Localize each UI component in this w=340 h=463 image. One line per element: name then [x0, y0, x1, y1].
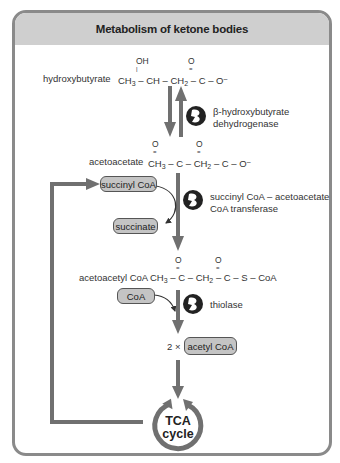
formula-acetoacetyl-coa: CH3 – C – CH2 – C – S – CoA [150, 272, 277, 286]
oh-group: OH [136, 57, 149, 66]
enzyme-label-1-line2: dehydrogenase [213, 118, 279, 129]
arrow-down-4 [172, 360, 184, 399]
enzyme-icon-dehydrogenase [186, 106, 206, 126]
compound-name-acetoacetyl-coa: acetoacetyl CoA [79, 272, 148, 283]
enzyme-label-3: thiolase [210, 299, 243, 310]
pathway-arrows [0, 0, 340, 463]
enzyme-label-2-line2: CoA transferase [210, 203, 278, 214]
succinyl-coa-box: succinyl CoA [100, 176, 157, 192]
tca-label-line2: cycle [158, 428, 198, 441]
acetyl-coa-box: acetyl CoA [184, 337, 237, 355]
arrow-up-1 [175, 86, 187, 137]
compound-name-acetoacetate: acetoacetate [89, 156, 143, 167]
formula-hydroxybutyrate: CH3 – CH – CH2 – C – O– [118, 73, 227, 89]
coa-arrow [154, 295, 175, 311]
acetyl-multiplier: 2 × [167, 341, 180, 352]
enzyme-icon-thiolase [183, 294, 203, 314]
succinyl-to-succinate-arrow [156, 186, 176, 223]
enzyme-label-1-line1: β-hydroxybutyrate [213, 106, 289, 117]
arrow-down-3 [172, 290, 184, 334]
formula-acetoacetate: CH3 – C – CH2 – C – O– [148, 156, 251, 172]
arrow-down-2 [172, 173, 184, 251]
arrow-down-1 [164, 86, 176, 137]
coa-box: CoA [117, 288, 155, 304]
succinate-box: succinate [113, 218, 158, 234]
compound-name-hydroxybutyrate: hydroxybutyrate [43, 73, 111, 84]
enzyme-icon-transferase [183, 190, 203, 210]
enzyme-label-2-line1: succinyl CoA – acetoacetate [210, 191, 329, 202]
